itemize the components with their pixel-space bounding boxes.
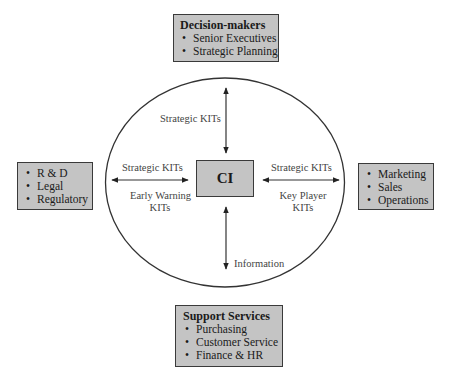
list-item: Sales bbox=[365, 181, 433, 194]
list-item: Marketing bbox=[365, 168, 433, 181]
left-arrow-label-below: Early Warning KITs bbox=[130, 190, 190, 214]
right-arrow-label-below: Key Player KITs bbox=[276, 190, 330, 214]
list-item: Regulatory bbox=[24, 193, 92, 206]
rnd-legal-box: R & D Legal Regulatory bbox=[17, 162, 93, 210]
marketing-sales-box: Marketing Sales Operations bbox=[358, 163, 434, 210]
list-item: Operations bbox=[365, 194, 433, 207]
list-item: Senior Executives bbox=[180, 32, 278, 45]
decision-makers-title: Decision-makers bbox=[180, 19, 278, 32]
support-services-title: Support Services bbox=[183, 310, 282, 323]
ci-label: CI bbox=[217, 170, 234, 187]
list-item: Strategic Planning bbox=[180, 45, 278, 58]
key-player-text: Key Player bbox=[276, 190, 330, 202]
kits-text: KITs bbox=[276, 202, 330, 214]
left-arrow-label-above: Strategic KITs bbox=[122, 162, 183, 174]
list-item: R & D bbox=[24, 167, 92, 180]
support-services-box: Support Services Purchasing Customer Ser… bbox=[175, 305, 283, 367]
right-arrow-label-above: Strategic KITs bbox=[271, 162, 332, 174]
bottom-arrow-label: Information bbox=[234, 258, 284, 270]
kits-text: KITs bbox=[130, 202, 190, 214]
ci-box: CI bbox=[196, 160, 254, 197]
list-item: Customer Service bbox=[183, 336, 282, 349]
list-item: Legal bbox=[24, 180, 92, 193]
decision-makers-box: Decision-makers Senior Executives Strate… bbox=[173, 14, 279, 62]
list-item: Purchasing bbox=[183, 323, 282, 336]
ci-diagram: Decision-makers Senior Executives Strate… bbox=[0, 0, 449, 385]
early-warning-text: Early Warning bbox=[130, 190, 190, 202]
list-item: Finance & HR bbox=[183, 349, 282, 362]
top-arrow-label: Strategic KITs bbox=[160, 113, 221, 125]
